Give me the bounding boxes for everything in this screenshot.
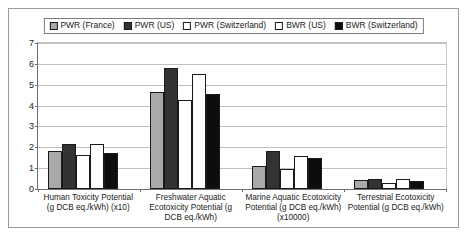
y-axis-tick-label: 4 (29, 101, 34, 110)
category-tick (140, 189, 141, 192)
bar (150, 92, 164, 189)
y-axis-tick-label: 1 (29, 164, 34, 173)
y-axis-tick-label: 5 (29, 80, 34, 89)
legend-entry-label: BWR (Switzerland) (346, 21, 418, 30)
category-label: Marine Aquatic Ecotoxicity Potential (g … (242, 193, 345, 233)
x-axis-labels: Human Toxicity Potential (g DCB eq./kWh)… (37, 193, 447, 233)
y-axis-tick-label: 2 (29, 143, 34, 152)
category-label: Terrestrial Ecotoxicity Potential (g DCB… (345, 193, 448, 233)
legend-entry[interactable]: BWR (US) (275, 21, 326, 30)
legend-swatch-icon (275, 22, 283, 30)
legend-swatch-icon (124, 22, 132, 30)
bar (104, 153, 118, 189)
bar (354, 180, 368, 189)
category-tick (38, 189, 39, 192)
category-label: Human Toxicity Potential (g DCB eq./kWh)… (37, 193, 140, 233)
bar (90, 144, 104, 189)
bar (62, 144, 76, 189)
y-axis-tick-label: 3 (29, 122, 34, 131)
bar (396, 179, 410, 189)
category-label: Freshwater Aquatic Ecotoxicity Potential… (140, 193, 243, 233)
legend-swatch-icon (49, 22, 57, 30)
legend-entry-label: PWR (US) (135, 21, 175, 30)
bar (192, 74, 206, 189)
bar (164, 68, 178, 189)
category-tick (344, 189, 345, 192)
bar (48, 151, 62, 189)
bar (266, 151, 280, 189)
legend-entry-label: PWR (Switzerland) (194, 21, 266, 30)
y-axis-tick-label: 7 (29, 39, 34, 48)
bar (206, 94, 220, 189)
legend-entry[interactable]: BWR (Switzerland) (335, 21, 418, 30)
bar (76, 155, 90, 189)
legend-entry-label: BWR (US) (286, 21, 326, 30)
legend-entry-label: PWR (France) (60, 21, 114, 30)
plot-area: 01234567 (37, 42, 447, 190)
category-tick (242, 189, 243, 192)
bar (382, 183, 396, 189)
legend-entry[interactable]: PWR (Switzerland) (183, 21, 266, 30)
category-tick (446, 189, 447, 192)
y-axis-tick-label: 6 (29, 59, 34, 68)
bar (308, 158, 322, 189)
chart-legend: PWR (France)PWR (US)PWR (Switzerland)BWR… (43, 18, 423, 34)
bar (410, 181, 424, 189)
legend-swatch-icon (335, 22, 343, 30)
legend-entry[interactable]: PWR (US) (124, 21, 175, 30)
chart-frame: PWR (France)PWR (US)PWR (Switzerland)BWR… (8, 8, 459, 228)
bar (294, 156, 308, 189)
bar (252, 166, 266, 189)
bar (368, 179, 382, 189)
legend-entry[interactable]: PWR (France) (49, 21, 114, 30)
y-axis-tick-label: 0 (29, 185, 34, 194)
bar (178, 100, 192, 189)
bar (280, 169, 294, 189)
legend-swatch-icon (183, 22, 191, 30)
bars-layer (38, 43, 446, 189)
